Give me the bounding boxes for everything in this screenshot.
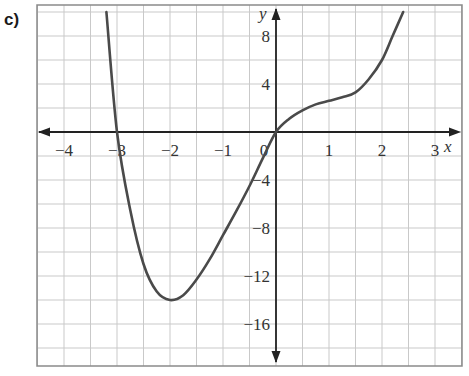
y-tick-label: −16 xyxy=(243,315,270,334)
x-axis-label: x xyxy=(443,137,452,156)
x-tick-label: 2 xyxy=(378,141,387,160)
y-axis xyxy=(272,8,281,363)
x-tick-label: 1 xyxy=(325,141,334,160)
y-tick-label: −12 xyxy=(243,267,270,286)
x-tick-label: −3 xyxy=(108,141,126,160)
x-tick-labels: −4−3−2−10123 xyxy=(55,141,439,160)
x-axis-left-arrow-icon xyxy=(38,128,50,137)
y-axis-label: y xyxy=(257,4,267,23)
x-tick-label: 3 xyxy=(431,141,440,160)
x-axis-right-arrow-icon xyxy=(449,128,461,137)
x-tick-label: −4 xyxy=(55,141,74,160)
y-axis-down-arrow-icon xyxy=(272,351,281,363)
function-graph: −4−3−2−10123 84−4−8−12−16 x y xyxy=(0,0,469,376)
y-tick-label: 8 xyxy=(262,27,271,46)
y-tick-label: 4 xyxy=(262,75,271,94)
x-tick-label: −2 xyxy=(161,141,179,160)
y-axis-up-arrow-icon xyxy=(272,8,281,20)
x-tick-label: −1 xyxy=(214,141,232,160)
y-tick-label: −8 xyxy=(252,219,270,238)
